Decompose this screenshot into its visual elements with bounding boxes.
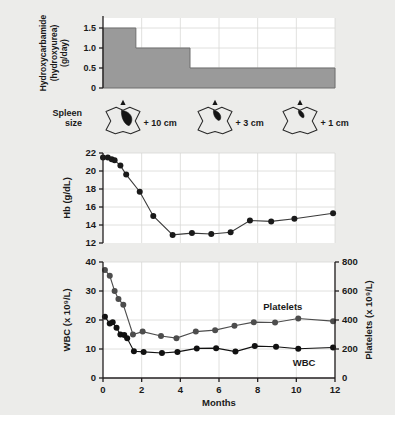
spleen-organ-icon xyxy=(213,110,220,120)
hb-y-axis-title: Hb (g/dL) xyxy=(61,177,72,219)
hb-y-tick-label: 14 xyxy=(85,219,96,230)
hb-data-point xyxy=(112,157,118,163)
hb-data-point xyxy=(247,218,253,224)
data-point-platelets xyxy=(173,335,179,341)
dose-y-tick-label: 0 xyxy=(91,83,96,93)
spleen-measurement-label: + 3 cm xyxy=(236,118,264,128)
dose-y-axis-title: (hydroxyurea) xyxy=(49,24,59,81)
data-point-wbc xyxy=(252,343,258,349)
hb-data-point xyxy=(208,231,214,237)
data-point-platelets xyxy=(212,327,218,333)
data-point-wbc xyxy=(273,344,279,350)
hb-y-tick-label: 20 xyxy=(85,165,96,176)
wbc-y-tick-label: 20 xyxy=(85,314,96,325)
hb-data-point xyxy=(170,232,176,238)
data-point-platelets xyxy=(115,296,121,302)
data-point-wbc xyxy=(174,349,180,355)
panel-dose: 00.51.01.5Hydroxycarbamide(hydroxyurea)(… xyxy=(38,14,335,93)
spleen-size-label: Spleen xyxy=(52,108,82,118)
data-point-wbc xyxy=(110,319,116,325)
data-point-platelets xyxy=(140,329,146,335)
data-point-wbc xyxy=(159,350,165,356)
hb-data-point xyxy=(291,216,297,222)
data-point-platelets xyxy=(130,332,136,338)
data-point-platelets xyxy=(295,316,301,322)
spleen-organ-icon xyxy=(298,110,304,118)
data-point-platelets xyxy=(251,319,257,325)
hb-data-point xyxy=(330,210,336,216)
dose-y-tick-label: 1.0 xyxy=(83,43,96,53)
x-tick-label: 6 xyxy=(216,384,221,395)
platelets-y-tick-label: 800 xyxy=(342,256,358,267)
data-point-wbc xyxy=(295,346,301,352)
spleen-measurement-label: + 10 cm xyxy=(144,118,177,128)
hb-data-point xyxy=(228,229,234,235)
platelets-y-tick-label: 200 xyxy=(342,343,358,354)
hb-data-point xyxy=(150,213,156,219)
data-point-platelets xyxy=(272,319,278,325)
data-point-platelets xyxy=(231,323,237,329)
wbc-y-tick-label: 10 xyxy=(85,343,96,354)
data-point-platelets xyxy=(120,302,126,308)
data-point-wbc xyxy=(213,345,219,351)
x-tick-label: 0 xyxy=(100,384,105,395)
data-point-wbc xyxy=(131,348,137,354)
data-point-wbc xyxy=(141,349,147,355)
hb-data-point xyxy=(117,163,123,169)
hb-data-point xyxy=(189,230,195,236)
panel-hb: 121416182022Hb (g/dL) xyxy=(61,147,336,248)
spleen-marker-triangle xyxy=(120,100,125,105)
panel-wbc-platelets: PlateletsWBC1020304002004006008000024681… xyxy=(61,256,374,408)
chart-canvas: 00.51.01.5Hydroxycarbamide(hydroxyurea)(… xyxy=(0,0,395,415)
x-tick-label: 12 xyxy=(330,384,341,395)
wbc-y-tick-label: 40 xyxy=(85,256,96,267)
dose-y-axis-title: Hydroxycarbamide xyxy=(38,14,48,91)
platelets-y-tick-label: 400 xyxy=(342,314,358,325)
spleen-row: Spleensize+ 10 cm+ 3 cm+ 1 cm xyxy=(52,100,348,134)
dose-y-tick-label: 0.5 xyxy=(83,63,96,73)
data-point-wbc xyxy=(232,349,238,355)
x-tick-label: 10 xyxy=(291,384,302,395)
x-tick-label: 4 xyxy=(178,384,184,395)
spleen-marker-triangle xyxy=(297,100,302,105)
x-tick-label: 8 xyxy=(255,384,260,395)
platelets-y-axis-title: Platelets (x 10⁹/L) xyxy=(363,280,374,359)
series-label-wbc: WBC xyxy=(293,357,316,368)
data-point-wbc xyxy=(114,325,120,331)
spleen-measurement-label: + 1 cm xyxy=(321,118,349,128)
data-point-platelets xyxy=(112,288,118,294)
hb-y-tick-label: 16 xyxy=(85,201,96,212)
platelets-y-tick-label-zero: 0 xyxy=(342,372,347,383)
data-point-wbc xyxy=(124,335,130,341)
wbc-y-tick-label-zero: 0 xyxy=(91,372,96,383)
spleen-size-label: size xyxy=(65,118,82,128)
x-tick-label: 2 xyxy=(139,384,144,395)
spleen-marker-triangle xyxy=(212,100,217,105)
data-point-platelets xyxy=(107,273,113,279)
dose-y-axis-title: (g/day) xyxy=(59,39,69,67)
data-point-platelets xyxy=(193,329,199,335)
wbc-y-axis-title: WBC (x 10⁹/L) xyxy=(61,288,72,351)
series-label-platelets: Platelets xyxy=(263,301,302,312)
hb-data-point xyxy=(137,189,143,195)
hb-y-tick-label: 18 xyxy=(85,183,96,194)
data-point-platelets xyxy=(158,333,164,339)
hb-data-point xyxy=(123,172,129,178)
dose-y-tick-label: 1.5 xyxy=(83,23,96,33)
spleen-organ-icon xyxy=(121,110,131,126)
hb-data-point xyxy=(268,218,274,224)
platelets-y-tick-label: 600 xyxy=(342,285,358,296)
hb-y-tick-label: 22 xyxy=(85,147,96,158)
x-axis-title: Months xyxy=(202,397,236,408)
data-point-wbc xyxy=(194,345,200,351)
hb-y-tick-label: 12 xyxy=(85,237,96,248)
clinical-response-figure: 00.51.01.5Hydroxycarbamide(hydroxyurea)(… xyxy=(0,0,395,415)
wbc-y-tick-label: 30 xyxy=(85,285,96,296)
